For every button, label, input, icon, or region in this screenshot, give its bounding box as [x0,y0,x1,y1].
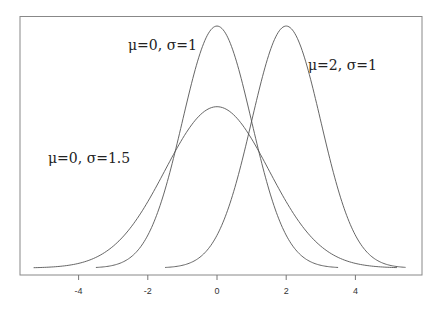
curve-labels: μ=0, σ=1μ=2, σ=1μ=0, σ=1.5 [48,37,377,166]
x-axis-ticks: -4-2024 [75,275,358,296]
normal-distribution-chart: -4-2024 μ=0, σ=1μ=2, σ=1μ=0, σ=1.5 [0,0,438,310]
density-curve [96,26,338,267]
x-tick-label: -2 [144,286,152,296]
curve-label: μ=0, σ=1 [128,37,197,53]
curve-label: μ=0, σ=1.5 [48,150,130,166]
plot-frame [20,17,422,276]
x-tick-label: 4 [353,286,358,296]
curve-label: μ=2, σ=1 [308,57,377,73]
density-curve [34,107,397,268]
x-tick-label: 2 [284,286,289,296]
x-tick-label: -4 [75,286,83,296]
x-tick-label: 0 [214,286,219,296]
